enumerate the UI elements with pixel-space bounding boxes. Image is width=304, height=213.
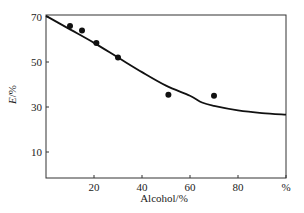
plot-frame — [46, 15, 286, 178]
y-axis-title: E/% — [6, 85, 18, 105]
data-point — [67, 23, 73, 29]
y-tick-label: 10 — [31, 146, 43, 158]
x-tick-label: 20 — [89, 181, 101, 193]
plot-border — [46, 15, 286, 178]
y-tick-label: 30 — [31, 101, 43, 113]
y-tick-label: 70 — [31, 11, 43, 23]
series-layer — [46, 16, 286, 115]
x-tick-label: 80 — [233, 181, 245, 193]
data-point — [211, 93, 217, 99]
y-tick-label: 50 — [31, 56, 43, 68]
data-point — [115, 55, 121, 61]
data-point — [93, 40, 99, 46]
y-axis-title-unit: /% — [6, 85, 18, 97]
x-tick-label: % — [281, 181, 290, 193]
data-point — [79, 28, 85, 34]
x-axis-title: Alcohol/% — [140, 192, 188, 204]
chart: 20406080% 10305070 Alcohol/% E/% — [0, 0, 304, 213]
data-point — [165, 92, 171, 98]
